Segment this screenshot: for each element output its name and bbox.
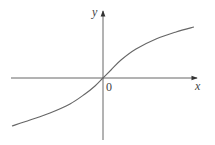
origin-label: 0 (106, 81, 112, 93)
x-axis-label: x (195, 80, 200, 92)
y-axis-label: y (92, 6, 97, 18)
graph-canvas (0, 0, 215, 145)
